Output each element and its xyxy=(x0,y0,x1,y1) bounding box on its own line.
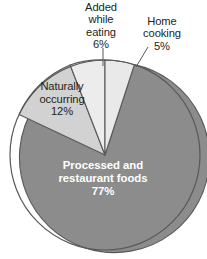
pie-label-naturally-occurring: Naturally occurring 12% xyxy=(22,80,102,118)
pie-label-added-while-eating: Added while eating 6% xyxy=(70,1,132,51)
pie-chart: Added while eating 6% Home cooking 5% Na… xyxy=(0,0,207,259)
pie-label-processed-restaurant-foods: Processed and restaurant foods 77% xyxy=(33,159,173,197)
pie-label-home-cooking: Home cooking 5% xyxy=(130,15,194,52)
